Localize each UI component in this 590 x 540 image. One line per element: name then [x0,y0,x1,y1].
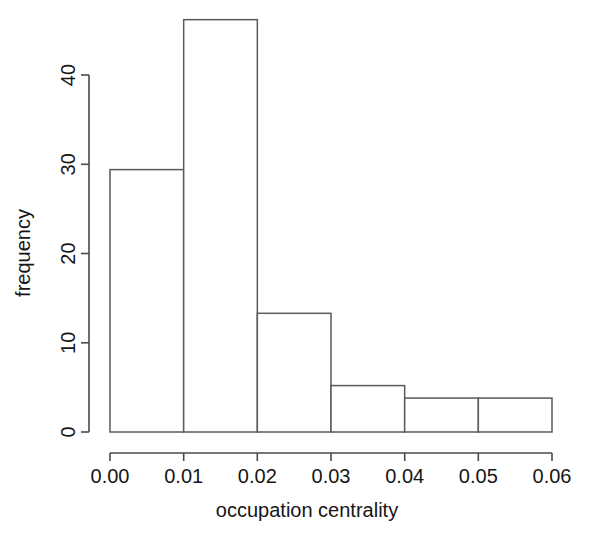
histogram-bar [110,170,184,432]
x-axis-tick-label: 0.01 [164,465,203,487]
histogram-bar [257,313,331,432]
x-axis-tick-label: 0.03 [312,465,351,487]
bar-series [110,20,552,432]
x-axis-title: occupation centrality [216,499,398,521]
x-axis-tick-label: 0.02 [238,465,277,487]
x-axis-tick-label: 0.06 [533,465,572,487]
y-axis-tick-label: 30 [57,153,79,175]
y-axis-tick-label: 20 [57,242,79,264]
y-axis-tick-label: 10 [57,332,79,354]
histogram-plot-area: 0 10 20 30 40 0.00 0.01 0.02 0.03 0.04 0… [0,0,590,540]
histogram-bar [405,398,479,432]
x-axis-tick-label: 0.05 [459,465,498,487]
histogram-bar [184,20,258,432]
y-axis-title: frequency [12,209,34,297]
y-axis: 0 10 20 30 40 [57,64,89,438]
histogram-chart: 0 10 20 30 40 0.00 0.01 0.02 0.03 0.04 0… [0,0,590,540]
x-axis-tick-label: 0.04 [385,465,424,487]
y-axis-tick-label: 0 [57,426,79,437]
x-axis-tick-label: 0.00 [91,465,130,487]
histogram-bar [478,398,552,432]
y-axis-tick-label: 40 [57,64,79,86]
histogram-bar [331,386,405,432]
x-axis: 0.00 0.01 0.02 0.03 0.04 0.05 0.06 [91,453,572,487]
